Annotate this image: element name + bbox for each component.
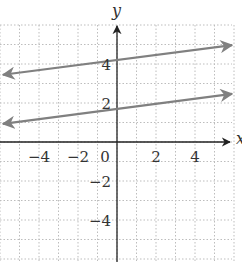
coordinate-plane: xy−4−202442−2−4 [0, 0, 242, 262]
x-tick-label: −4 [28, 148, 50, 166]
y-tick-label: 2 [101, 95, 111, 113]
x-tick-label: −2 [67, 148, 89, 166]
x-tick-label: 0 [100, 148, 110, 166]
x-tick-label: 2 [151, 148, 161, 166]
x-axis-label: x [236, 129, 242, 148]
x-tick-label: 4 [190, 148, 200, 166]
y-tick-label: 4 [101, 56, 111, 74]
y-axis-label: y [111, 1, 122, 20]
y-tick-label: −2 [89, 173, 111, 191]
y-tick-label: −4 [89, 212, 111, 230]
